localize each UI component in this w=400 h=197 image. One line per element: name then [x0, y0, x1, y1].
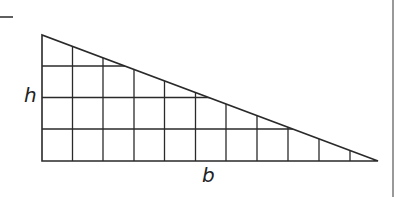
height-label: h	[24, 83, 37, 107]
triangle-diagram: h b	[0, 0, 400, 197]
base-label: b	[202, 163, 215, 187]
grid	[42, 30, 400, 161]
